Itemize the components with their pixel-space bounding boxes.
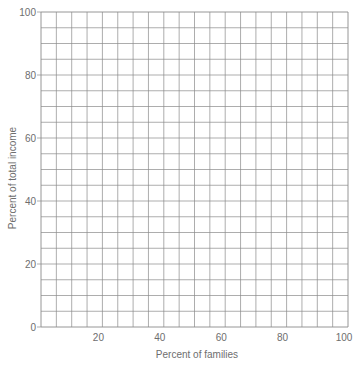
x-tick-label: 60: [216, 332, 228, 343]
blank-lorenz-grid-chart: 020406080100 20406080100 Percent of fami…: [0, 0, 362, 369]
chart-canvas: 020406080100 20406080100 Percent of fami…: [0, 0, 362, 369]
x-tick-label: 80: [277, 332, 289, 343]
x-tick-label: 20: [93, 332, 105, 343]
x-tick-label: 100: [336, 332, 353, 343]
y-tick-label: 100: [19, 7, 36, 18]
y-tick-label: 80: [25, 70, 37, 81]
y-tick-label: 20: [25, 259, 37, 270]
y-axis-ticks: 020406080100: [19, 7, 41, 333]
x-axis-ticks: 20406080100: [93, 332, 353, 343]
plot-grid: [41, 12, 348, 327]
y-tick-label: 60: [25, 133, 37, 144]
x-tick-label: 40: [154, 332, 166, 343]
y-tick-label: 0: [30, 322, 36, 333]
x-axis-label: Percent of families: [156, 349, 238, 360]
y-axis-label: Percent of total income: [7, 126, 18, 229]
y-tick-label: 40: [25, 196, 37, 207]
